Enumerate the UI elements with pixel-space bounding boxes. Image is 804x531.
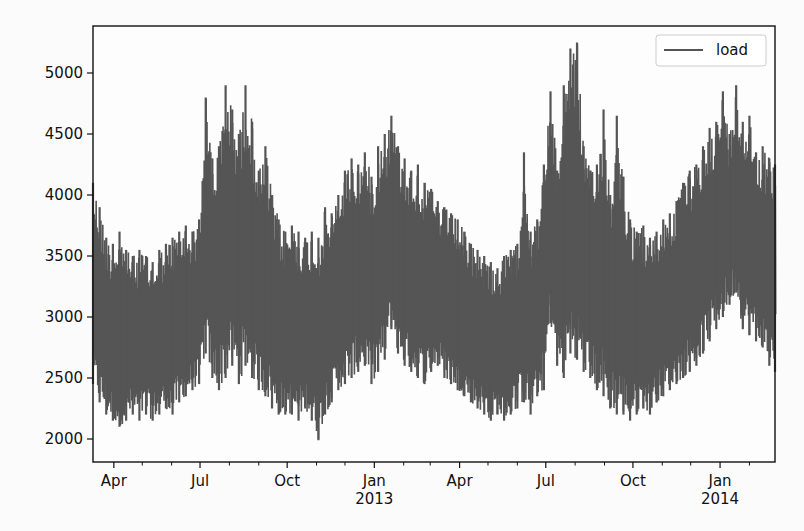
x-tick-label: Apr bbox=[447, 472, 474, 490]
y-axis: 2000250030003500400045005000 bbox=[45, 64, 93, 448]
x-tick-year-label: 2014 bbox=[701, 490, 739, 508]
x-tick-label: Jul bbox=[536, 472, 555, 490]
y-tick-label: 2000 bbox=[45, 430, 83, 448]
y-tick-label: 2500 bbox=[45, 369, 83, 387]
x-tick-label: Jan bbox=[362, 472, 386, 490]
x-tick-year-label: 2013 bbox=[355, 490, 393, 508]
y-tick-label: 4500 bbox=[45, 125, 83, 143]
y-tick-label: 5000 bbox=[45, 64, 83, 82]
legend: load bbox=[656, 35, 766, 66]
y-tick-label: 3000 bbox=[45, 308, 83, 326]
x-axis: AprJulOctJan2013AprJulOctJan2014 bbox=[101, 462, 750, 508]
plot-area bbox=[93, 26, 776, 462]
x-tick-label: Jul bbox=[190, 472, 209, 490]
legend-label-load: load bbox=[716, 41, 748, 59]
y-tick-label: 3500 bbox=[45, 247, 83, 265]
y-tick-label: 4000 bbox=[45, 186, 83, 204]
x-tick-label: Apr bbox=[101, 472, 128, 490]
x-tick-label: Oct bbox=[274, 472, 300, 490]
chart: 2000250030003500400045005000 AprJulOctJa… bbox=[0, 0, 804, 531]
x-tick-label: Jan bbox=[707, 472, 731, 490]
x-tick-label: Oct bbox=[620, 472, 646, 490]
